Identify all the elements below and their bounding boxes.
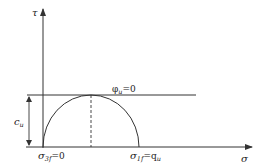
major-stress-rest: =q	[143, 151, 157, 161]
tau-axis-label: τ	[32, 7, 38, 18]
cohesion-label: cu	[14, 116, 24, 129]
major-principal-stress-label: σ1f=qu	[130, 150, 161, 163]
mohr-circle-diagram: τ σ φu=0 cu σ3f=0 σ1f=qu	[0, 0, 269, 166]
envelope-label: φu=0	[112, 84, 136, 96]
envelope-rest: =0	[123, 84, 137, 94]
cohesion-sub: u	[20, 121, 24, 129]
sigma-axis-label: σ	[241, 153, 249, 164]
major-stress-rest-sub: u	[157, 155, 161, 163]
minor-principal-stress-label: σ3f=0	[38, 150, 65, 163]
minor-stress-rest: =0	[51, 151, 65, 161]
